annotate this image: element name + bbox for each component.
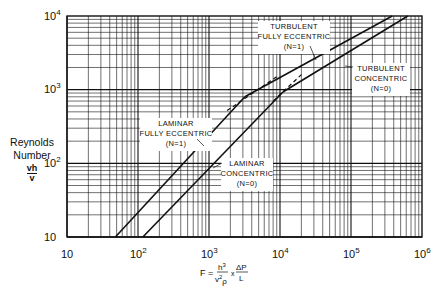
svg-text:h3: h3 — [218, 262, 226, 272]
y-tick-1000: 103 — [44, 81, 61, 95]
svg-text:L: L — [239, 274, 244, 283]
annotation-laminar-concentric: LAMINAR CONCENTRIC (N=0) — [213, 158, 274, 191]
x-axis-formula: F = h3 v2ρ x ΔP L — [200, 262, 248, 286]
x-tick-10: 10 — [61, 248, 73, 260]
svg-text:x: x — [231, 270, 235, 277]
svg-text:F =: F = — [200, 268, 213, 278]
y-tick-10000: 104 — [44, 8, 61, 22]
annotation-laminar-eccentric: LAMINAR FULLY ECCENTRIC (N=1) — [140, 118, 213, 151]
svg-text:(N=1): (N=1) — [166, 139, 187, 148]
svg-text:v2ρ: v2ρ — [215, 274, 227, 286]
svg-text:(N=0): (N=0) — [371, 84, 392, 93]
svg-text:LAMINAR: LAMINAR — [229, 159, 265, 168]
x-tick-100000: 105 — [343, 246, 360, 260]
x-tick-100: 102 — [130, 246, 147, 260]
svg-text:TURBULENT: TURBULENT — [270, 22, 318, 31]
y-axis-label: Reynolds Number vh v — [3, 136, 61, 184]
annotation-turbulent-concentric: TURBULENT CONCENTRIC (N=0) — [345, 63, 410, 96]
x-tick-10000: 104 — [272, 246, 289, 260]
svg-text:ΔP: ΔP — [236, 263, 247, 272]
svg-text:TURBULENT: TURBULENT — [357, 64, 405, 73]
svg-text:CONCENTRIC: CONCENTRIC — [355, 74, 408, 83]
svg-text:(N=0): (N=0) — [237, 179, 258, 188]
svg-text:(N=1): (N=1) — [284, 42, 305, 51]
y-tick-10: 10 — [44, 231, 56, 243]
reynolds-chart: 10 102 103 104 10 102 103 104 105 106 F … — [0, 0, 442, 298]
svg-text:FULLY ECCENTRIC: FULLY ECCENTRIC — [258, 32, 331, 41]
x-tick-1000: 103 — [201, 246, 218, 260]
svg-text:CONCENTRIC: CONCENTRIC — [221, 169, 274, 178]
grid-lines — [67, 16, 422, 237]
plot-frame — [67, 16, 422, 237]
x-tick-1000000: 106 — [414, 246, 431, 260]
svg-text:FULLY ECCENTRIC: FULLY ECCENTRIC — [140, 129, 213, 138]
annotation-turbulent-eccentric: TURBULENT FULLY ECCENTRIC (N=1) — [258, 21, 331, 60]
svg-text:LAMINAR: LAMINAR — [158, 119, 194, 128]
